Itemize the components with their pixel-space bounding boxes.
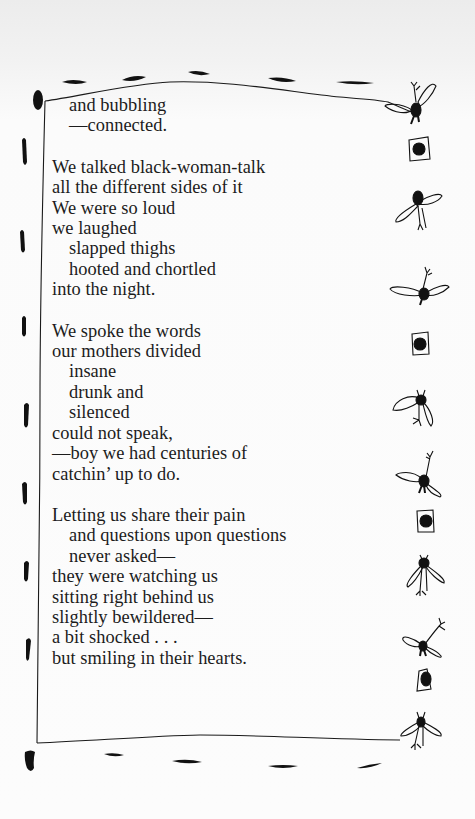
- bird-icon: [390, 267, 449, 305]
- framed-dot-icon: [417, 510, 434, 532]
- poem-line: catchin’ up to do.: [52, 464, 382, 484]
- poem-page: and bubbling —connected. We talked black…: [0, 0, 475, 819]
- bird-icon: [401, 712, 441, 750]
- right-decoration-column: [385, 82, 449, 750]
- poem-line: We talked black-woman-talk: [52, 157, 382, 177]
- poem-line: all the different sides of it: [52, 177, 382, 197]
- bird-icon: [385, 82, 436, 124]
- bird-icon: [396, 451, 441, 497]
- stanza: Letting us share their pain and question…: [52, 505, 382, 668]
- framed-dot-icon: [412, 332, 429, 355]
- poem-line: a bit shocked . . .: [52, 627, 382, 647]
- poem-body: and bubbling —connected. We talked black…: [52, 95, 382, 689]
- poem-line: —connected.: [52, 115, 382, 135]
- top-ink-marks: [62, 71, 374, 84]
- bird-icon: [393, 390, 433, 426]
- poem-line: never asked—: [52, 546, 382, 566]
- framed-dot-icon: [409, 137, 430, 161]
- poem-line: silenced: [52, 402, 382, 422]
- bird-icon: [407, 555, 444, 596]
- poem-line: could not speak,: [52, 423, 382, 443]
- poem-line: into the night.: [52, 279, 382, 299]
- poem-line: We spoke the words: [52, 321, 382, 341]
- poem-line: Letting us share their pain: [52, 505, 382, 525]
- poem-line: and bubbling: [52, 95, 382, 115]
- poem-line: we laughed: [52, 218, 382, 238]
- stanza: We spoke the words our mothers divided i…: [52, 321, 382, 484]
- poem-line: but smiling in their hearts.: [52, 648, 382, 668]
- poem-line: sitting right behind us: [52, 587, 382, 607]
- poem-line: slightly bewildered—: [52, 607, 382, 627]
- poem-line: drunk and: [52, 382, 382, 402]
- poem-line: and questions upon questions: [52, 525, 382, 545]
- poem-line: insane: [52, 361, 382, 381]
- poem-line: they were watching us: [52, 566, 382, 586]
- poem-line: our mothers divided: [52, 341, 382, 361]
- stanza: We talked black-woman-talk all the diffe…: [52, 157, 382, 300]
- framed-dot-icon: [417, 669, 431, 691]
- bird-icon: [403, 618, 445, 657]
- stanza: and bubbling —connected.: [52, 95, 382, 136]
- bird-icon: [396, 191, 442, 230]
- poem-line: hooted and chortled: [52, 259, 382, 279]
- poem-line: We were so loud: [52, 198, 382, 218]
- poem-line: slapped thighs: [52, 238, 382, 258]
- bottom-ink-marks: [104, 753, 382, 768]
- poem-line: —boy we had centuries of: [52, 443, 382, 463]
